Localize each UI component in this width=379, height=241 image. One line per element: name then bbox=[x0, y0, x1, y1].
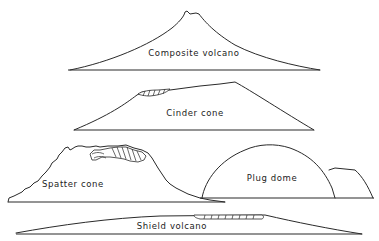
plug-label: Plug dome bbox=[247, 173, 297, 183]
plug-secondary-lobe bbox=[329, 168, 373, 198]
cinder-label: Cinder cone bbox=[166, 108, 224, 118]
composite-volcano: Composite volcano bbox=[68, 11, 320, 70]
shield-volcano: Shield volcano bbox=[16, 215, 362, 234]
cinder-cone: Cinder cone bbox=[74, 82, 314, 130]
plug-profile bbox=[202, 145, 335, 198]
plug-dome: Plug dome bbox=[200, 145, 374, 198]
volcano-types-diagram: Composite volcano Cinder cone S bbox=[0, 0, 379, 241]
cinder-profile bbox=[74, 82, 314, 130]
spatter-cone: Spatter cone bbox=[8, 145, 225, 202]
composite-profile bbox=[70, 11, 320, 70]
spatter-label: Spatter cone bbox=[42, 179, 104, 189]
shield-label: Shield volcano bbox=[137, 221, 207, 231]
composite-label: Composite volcano bbox=[148, 48, 239, 58]
